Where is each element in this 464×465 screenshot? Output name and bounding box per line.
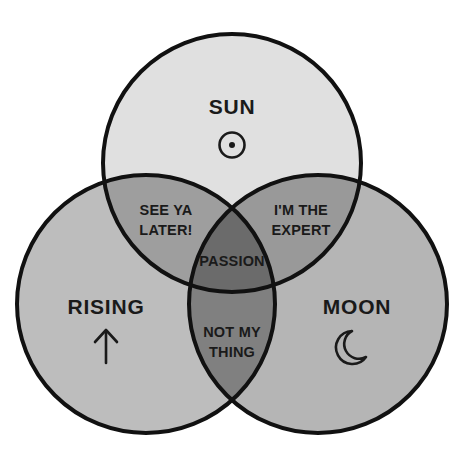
sun-label: SUN bbox=[209, 95, 256, 118]
rising-label: RISING bbox=[67, 295, 144, 318]
sun-moon-label-line1: I'M THE bbox=[274, 202, 328, 218]
rising-moon-label-line2: THING bbox=[209, 344, 255, 360]
sun-moon-label-line2: EXPERT bbox=[271, 222, 330, 238]
venn-diagram-canvas: SUN RISING MOON SEE YA LATER! I'M THE EX… bbox=[0, 0, 464, 465]
sun-rising-label-line1: SEE YA bbox=[140, 202, 193, 218]
moon-label: MOON bbox=[323, 295, 392, 318]
sun-rising-label-line2: LATER! bbox=[139, 222, 192, 238]
all-three-label: PASSION bbox=[199, 253, 265, 269]
venn-diagram-svg: SUN RISING MOON SEE YA LATER! I'M THE EX… bbox=[0, 0, 464, 465]
rising-moon-label-line1: NOT MY bbox=[203, 324, 261, 340]
